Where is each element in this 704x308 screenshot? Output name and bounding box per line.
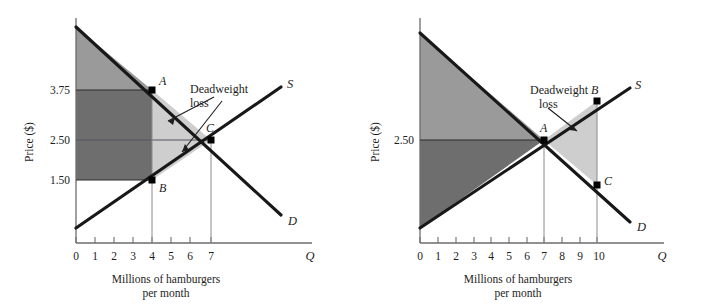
x-tick-label-1: 1: [92, 250, 98, 262]
x-tick-marks: [420, 237, 597, 243]
supply-curve-label: S: [287, 77, 294, 91]
chart-panel-left: A B C S D Deadweight loss 3.75 2.50 1.50…: [0, 0, 352, 308]
deadweight-loss-label-line2: loss: [539, 97, 558, 111]
supply-curve-label: S: [635, 78, 642, 92]
x-tick-label-2: 2: [111, 250, 117, 262]
x-tick-marks: [76, 237, 211, 243]
point-marker-c: [208, 137, 215, 144]
point-label-b: B: [159, 181, 167, 195]
x-axis-variable-label: Q: [657, 249, 666, 263]
x-tick-label-4: 4: [488, 250, 494, 262]
chart-panel-right: A B C S D Deadweight loss 2.50 Price ($)…: [352, 0, 704, 308]
point-marker-a: [541, 137, 548, 144]
point-marker-a: [149, 87, 156, 94]
x-axis-variable-label: Q: [305, 249, 314, 263]
x-tick-label-4: 4: [149, 250, 155, 262]
deadweight-loss-label-line1: Deadweight: [530, 83, 589, 97]
x-tick-label-7: 7: [541, 250, 547, 262]
point-marker-b: [594, 98, 601, 105]
x-axis-title-line1: Millions of hamburgers: [112, 273, 221, 286]
deadweight-loss-label-line1: Deadweight: [190, 82, 249, 96]
figure-root: A B C S D Deadweight loss 3.75 2.50 1.50…: [0, 0, 704, 308]
x-axis-title-line2: per month: [495, 287, 542, 300]
y-tick-label-250: 2.50: [394, 134, 414, 146]
point-marker-c: [594, 182, 601, 189]
point-marker-b: [149, 177, 156, 184]
y-tick-label-250: 2.50: [50, 134, 70, 146]
y-tick-label-375: 3.75: [50, 84, 70, 96]
chart-svg-right: A B C S D Deadweight loss 2.50 Price ($)…: [352, 0, 704, 308]
x-tick-label-1: 1: [435, 250, 441, 262]
x-tick-label-2: 2: [453, 250, 459, 262]
chart-svg-left: A B C S D Deadweight loss 3.75 2.50 1.50…: [0, 0, 352, 308]
point-label-c: C: [604, 174, 613, 188]
x-tick-label-5: 5: [168, 250, 174, 262]
x-tick-label-3: 3: [130, 250, 136, 262]
point-label-a: A: [539, 121, 548, 135]
deadweight-loss-label-line2: loss: [190, 96, 209, 110]
region-producer-surplus: [76, 90, 152, 180]
x-tick-label-5: 5: [506, 250, 512, 262]
point-label-c: C: [206, 121, 215, 135]
x-tick-label-10: 10: [593, 250, 605, 262]
x-tick-label-8: 8: [559, 250, 565, 262]
x-tick-label-0: 0: [73, 250, 79, 262]
x-tick-label-6: 6: [524, 250, 530, 262]
x-tick-label-0: 0: [417, 250, 423, 262]
point-label-a: A: [158, 74, 167, 88]
x-tick-label-3: 3: [471, 250, 477, 262]
x-tick-label-7: 7: [208, 250, 214, 262]
x-tick-label-6: 6: [187, 250, 193, 262]
x-axis-title-line1: Millions of hamburgers: [464, 273, 573, 286]
y-axis-title: Price ($): [23, 122, 36, 162]
demand-curve-label: D: [636, 220, 646, 234]
y-tick-label-150: 1.50: [50, 174, 70, 186]
x-axis-title-line2: per month: [143, 287, 190, 300]
x-tick-label-9: 9: [577, 250, 583, 262]
y-axis-title: Price ($): [369, 122, 382, 162]
demand-curve-label: D: [287, 214, 297, 228]
point-label-b: B: [591, 83, 599, 97]
